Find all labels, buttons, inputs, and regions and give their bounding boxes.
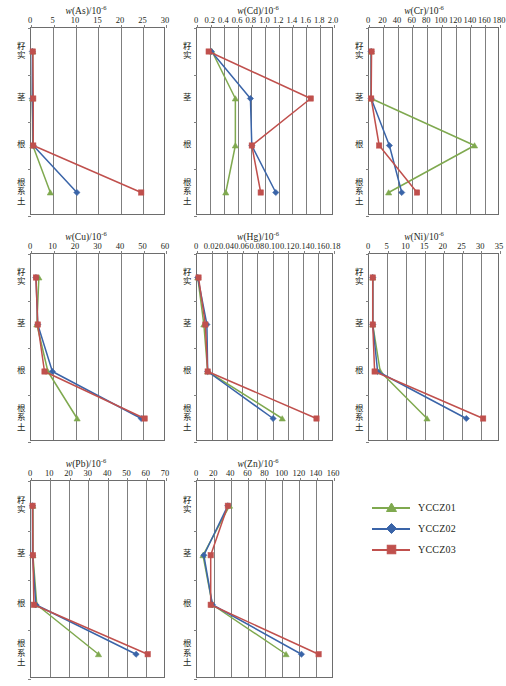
series-line: [203, 506, 286, 655]
data-point-marker: [298, 651, 304, 657]
y-tick-mark: [194, 442, 197, 443]
x-tick-label: 0: [28, 468, 32, 478]
x-tick-label: 1.4: [287, 15, 298, 25]
x-tick-label: 30: [84, 468, 93, 478]
x-tick-label: 5: [50, 15, 54, 25]
x-axis-ticklabels-cr: 020406080100120140160180: [344, 15, 504, 27]
legend-label: YCCZ01: [418, 502, 456, 513]
x-tick-label: 15: [420, 241, 429, 251]
data-point-marker: [133, 651, 139, 657]
x-tick-label: 25: [138, 15, 147, 25]
y-axis-category-labels-cu: 籽实茎根根系土: [15, 253, 28, 441]
series-layer-hg: [197, 254, 334, 442]
legend-label: YCCZ03: [418, 544, 456, 555]
x-tick-label: 20: [64, 468, 73, 478]
x-tick-label: 80: [422, 15, 431, 25]
x-tick-label: 0: [194, 15, 198, 25]
legend: YCCZ01YCCZ02YCCZ03: [372, 497, 456, 560]
y-category-label: 根系土: [15, 639, 28, 668]
chart-panel-cd: w(Cd)/10-600.20.40.60.81.01.21.41.61.82.…: [178, 2, 338, 217]
x-tick-label: 10: [45, 468, 54, 478]
data-point-marker: [399, 189, 405, 195]
y-category-label: 籽实: [181, 495, 194, 514]
x-tick-label: 35: [495, 241, 504, 251]
chart-panel-cr: w(Cr)/10-6020406080100120140160180籽实茎根根系…: [344, 2, 504, 217]
chart-title-exponent-cd: -6: [273, 4, 278, 11]
y-axis-category-labels-zn: 籽实茎根根系土: [181, 480, 194, 678]
data-point-marker: [42, 369, 47, 374]
y-category-label: 茎: [181, 319, 194, 329]
plot-area-cu: [30, 253, 165, 441]
data-point-marker: [249, 143, 254, 148]
chart-panel-cu: w(Cu)/10-60102030405060籽实茎根根系土: [2, 228, 170, 443]
x-tick-mark: [166, 251, 167, 254]
series-yccz03-as: [30, 49, 144, 195]
x-tick-label: 50: [122, 468, 131, 478]
x-tick-label: 120: [292, 468, 305, 478]
series-line: [32, 52, 77, 193]
x-tick-label: 80: [260, 468, 269, 478]
x-tick-label: 60: [407, 15, 416, 25]
x-tick-label: 0.16: [310, 241, 325, 251]
y-axis-category-labels-ni: 籽实茎根根系土: [353, 253, 366, 441]
series-yccz03-hg: [196, 275, 319, 421]
x-tick-label: 15: [93, 15, 102, 25]
y-category-label: 根系土: [181, 177, 194, 206]
series-layer-zn: [197, 481, 334, 679]
legend-label: YCCZ02: [418, 523, 456, 534]
data-point-marker: [316, 652, 321, 657]
data-point-marker: [139, 190, 144, 195]
series-line: [33, 506, 99, 655]
plot-area-zn: [196, 480, 333, 678]
data-point-marker: [370, 275, 375, 280]
series-line: [37, 278, 77, 419]
legend-symbol-diamond-icon: [385, 522, 398, 535]
y-axis-category-labels-cr: 籽实茎根根系土: [353, 27, 366, 215]
data-point-marker: [31, 143, 36, 148]
x-tick-label: 180: [493, 15, 506, 25]
legend-item-yccz02[interactable]: YCCZ02: [372, 518, 456, 539]
y-tick-mark: [194, 216, 197, 217]
data-point-marker: [30, 49, 35, 54]
y-category-label: 根系土: [181, 639, 194, 668]
x-tick-label: 50: [138, 241, 147, 251]
chart-title-exponent-hg: -6: [274, 230, 279, 237]
x-tick-label: 0.4: [218, 15, 229, 25]
y-category-label: 根系土: [353, 177, 366, 206]
x-tick-label: 60: [243, 468, 252, 478]
series-line: [33, 506, 137, 655]
series-yccz01-pb: [30, 503, 102, 657]
legend-item-yccz01[interactable]: YCCZ01: [372, 497, 456, 518]
series-yccz02-as: [29, 48, 80, 195]
x-tick-label: 2.0: [328, 15, 339, 25]
x-tick-label: 10: [401, 241, 410, 251]
y-category-label: 根: [181, 366, 194, 376]
x-tick-label: 10: [48, 241, 57, 251]
y-category-label: 根系土: [181, 403, 194, 432]
plot-area-pb: [30, 480, 165, 678]
series-yccz02-pb: [29, 503, 139, 658]
plot-area-as: [30, 27, 165, 215]
series-line: [211, 506, 319, 655]
series-yccz03-cu: [33, 275, 147, 421]
data-point-marker: [206, 49, 211, 54]
series-yccz02-zn: [201, 503, 305, 658]
x-tick-label: 0.04: [219, 241, 234, 251]
x-tick-label: 40: [393, 15, 402, 25]
plot-area-ni: [368, 253, 499, 441]
y-category-label: 根: [181, 140, 194, 150]
chart-panel-as: w(As)/10-6051015202530籽实茎根根系土: [2, 2, 170, 217]
y-category-label: 根系土: [15, 403, 28, 432]
x-tick-label: 160: [327, 468, 340, 478]
y-category-label: 茎: [181, 550, 194, 560]
y-category-label: 茎: [353, 93, 366, 103]
y-category-label: 根: [15, 366, 28, 376]
x-tick-label: 1.2: [273, 15, 284, 25]
x-axis-ticklabels-pb: 010203040506070: [2, 468, 170, 480]
plot-area-cr: [368, 27, 499, 215]
data-point-marker: [386, 142, 392, 148]
legend-item-yccz03[interactable]: YCCZ03: [372, 539, 456, 560]
y-tick-mark: [28, 442, 31, 443]
y-category-label: 根: [15, 599, 28, 609]
chart-panel-ni: w(Ni)/10-605101520253035籽实茎根根系土: [344, 228, 504, 443]
